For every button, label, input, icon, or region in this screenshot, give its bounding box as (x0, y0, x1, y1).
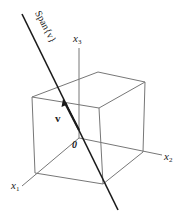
cube-edge (103, 152, 143, 184)
x2-axis (79, 138, 162, 155)
coordinate-axes (22, 48, 162, 186)
cube-edge (98, 72, 145, 82)
x2-axis-label: x2 (164, 151, 172, 164)
span-line-group (22, 14, 118, 210)
cube-edge (32, 97, 35, 173)
cube-edge (99, 82, 145, 108)
cube-and-line-drawing (0, 0, 182, 213)
origin-label: 0 (72, 140, 77, 150)
cube-edge (143, 82, 145, 152)
x1-axis-label: x1 (11, 180, 19, 193)
vector-label: v (55, 113, 61, 124)
span-of-vector-diagram: Span{v} x3 x2 x1 v 0 (0, 0, 182, 213)
cube-edge (35, 173, 103, 184)
cube-edge (32, 72, 98, 97)
x3-axis-label: x3 (73, 33, 81, 46)
cube-edges (32, 72, 145, 184)
vector-v (65, 103, 79, 130)
